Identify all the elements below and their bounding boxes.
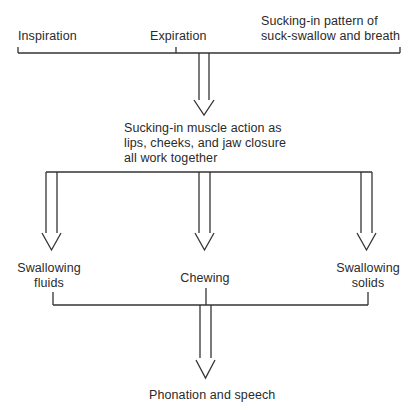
swallowing-solids-label-line1: Swallowing [333,261,403,276]
expiration-label: Expiration [150,29,207,44]
phonation-speech-label: Phonation and speech [149,388,275,403]
muscle-action-label-line3: all work together [124,151,217,166]
chewing-label: Chewing [170,271,240,286]
muscle-action-label-line2: lips, cheeks, and jaw closure [124,136,286,151]
inspiration-label: Inspiration [18,29,77,44]
sucking-pattern-label-line2: suck-swallow and breath [261,29,400,44]
swallowing-solids-label-line2: solids [333,276,403,291]
sucking-pattern-label-line1: Sucking-in pattern of [261,14,378,29]
diagram-lines [0,0,419,410]
muscle-action-label-line1: Sucking-in muscle action as [124,121,282,136]
swallowing-fluids-label-line2: fluids [14,276,84,291]
swallowing-fluids-label-line1: Swallowing [14,261,84,276]
